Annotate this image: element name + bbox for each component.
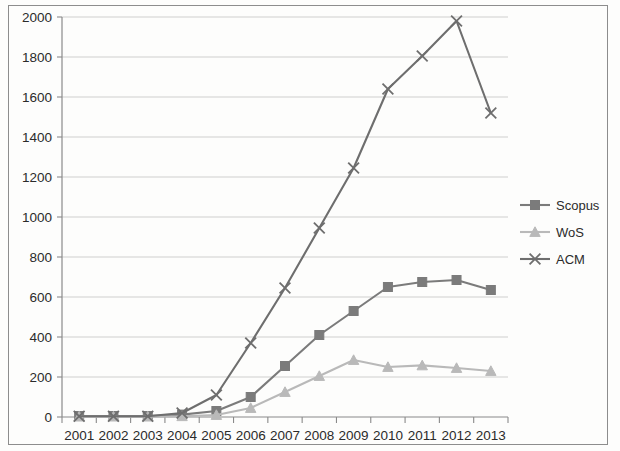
data-point-marker <box>281 362 290 371</box>
data-point-marker <box>280 283 291 294</box>
y-tick-label: 1200 <box>22 170 52 185</box>
x-tick-label: 2007 <box>270 428 300 443</box>
y-tick-label: 1600 <box>22 90 52 105</box>
data-point-marker <box>349 307 358 316</box>
x-tick-label: 2010 <box>373 428 403 443</box>
data-point-marker <box>211 390 222 401</box>
x-tick-label: 2009 <box>339 428 369 443</box>
data-point-marker <box>383 84 394 95</box>
x-tick-label: 2005 <box>201 428 231 443</box>
data-point-marker <box>418 278 427 287</box>
legend-item-wos[interactable]: WoS <box>520 225 584 240</box>
y-axis-tick-labels: 0200400600800100012001400160018002000 <box>22 10 52 425</box>
data-point-marker <box>315 331 324 340</box>
x-tick-label: 2001 <box>64 428 94 443</box>
x-tick-label: 2011 <box>408 428 437 443</box>
y-tick-label: 1800 <box>22 50 52 65</box>
data-point-marker <box>486 286 495 295</box>
y-tick-label: 0 <box>44 410 52 425</box>
y-tick-label: 800 <box>29 250 52 265</box>
data-point-marker <box>314 371 324 381</box>
legend-item-acm[interactable]: ACM <box>520 252 585 267</box>
legend-sample-marker <box>531 201 540 210</box>
x-tickmarks-group <box>62 417 508 423</box>
data-point-marker <box>383 283 392 292</box>
y-tick-label: 2000 <box>22 10 52 25</box>
x-tick-label: 2003 <box>133 428 163 443</box>
data-point-marker <box>246 393 255 402</box>
data-point-marker <box>348 355 358 365</box>
data-point-marker <box>314 223 325 234</box>
x-axis-tick-labels: 2001200220032004200520062007200820092010… <box>64 428 506 443</box>
y-tick-label: 1400 <box>22 130 52 145</box>
chart-legend: ScopusWoSACM <box>520 198 600 267</box>
x-tick-label: 2008 <box>304 428 334 443</box>
data-point-marker <box>348 163 359 174</box>
y-tickmarks-group <box>57 17 62 417</box>
legend-item-scopus[interactable]: Scopus <box>520 198 600 213</box>
data-point-marker <box>245 403 255 413</box>
x-tick-label: 2012 <box>442 428 472 443</box>
data-point-marker <box>485 108 496 119</box>
series-line <box>79 21 491 416</box>
y-tick-label: 400 <box>29 330 52 345</box>
x-tick-label: 2013 <box>476 428 506 443</box>
y-tick-label: 1000 <box>22 210 52 225</box>
line-chart-plot: 0200400600800100012001400160018002000 20… <box>0 0 620 451</box>
series-acm <box>74 16 496 422</box>
x-tick-label: 2006 <box>236 428 266 443</box>
data-point-marker <box>245 338 256 349</box>
gridlines-group <box>62 17 508 377</box>
data-point-marker <box>280 387 290 397</box>
legend-item-label: ACM <box>556 252 585 267</box>
y-tick-label: 200 <box>29 370 52 385</box>
x-tick-label: 2002 <box>98 428 128 443</box>
data-point-marker <box>417 51 428 62</box>
data-point-marker <box>452 276 461 285</box>
data-series-group <box>74 16 496 422</box>
x-tick-label: 2004 <box>167 428 198 443</box>
legend-item-label: Scopus <box>556 198 600 213</box>
y-tick-label: 600 <box>29 290 52 305</box>
legend-item-label: WoS <box>556 225 584 240</box>
chart-container: 0200400600800100012001400160018002000 20… <box>0 0 620 451</box>
